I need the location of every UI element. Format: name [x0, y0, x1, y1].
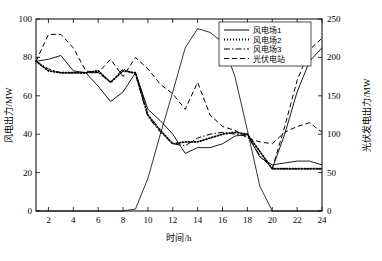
- x-tick-label: 12: [168, 215, 177, 225]
- y-axis-left-ticks: 020406080100: [19, 14, 41, 216]
- wind-pv-output-line-chart: 020406080100 050100150200250 24681012141…: [0, 0, 382, 261]
- x-tick-label: 6: [96, 215, 101, 225]
- y-axis-label-right: 光伏发电出力/MW: [361, 78, 372, 152]
- chart-legend: 风电场1风电场2风电场3光伏电站: [219, 22, 311, 66]
- y-tick-label-right: 150: [327, 91, 341, 101]
- y-axis-label-left: 风电出力/MW: [3, 87, 14, 143]
- y-tick-label-right: 0: [327, 206, 332, 216]
- chart-container: 020406080100 050100150200250 24681012141…: [0, 0, 382, 261]
- y-tick-label-right: 100: [327, 129, 341, 139]
- legend-label-风电场3: 风电场3: [253, 44, 282, 54]
- y-tick-label-left: 60: [23, 91, 33, 101]
- y-axis-right-ticks: 050100150200250: [318, 14, 341, 216]
- y-tick-label-left: 20: [23, 168, 33, 178]
- x-tick-label: 10: [143, 215, 153, 225]
- y-tick-label-left: 100: [19, 14, 33, 24]
- legend-label-风电场1: 风电场1: [253, 25, 282, 35]
- series-line-风电场3: [36, 61, 322, 169]
- y-tick-label-left: 40: [23, 129, 33, 139]
- x-tick-label: 14: [193, 215, 203, 225]
- x-tick-label: 24: [318, 215, 328, 225]
- x-tick-label: 20: [268, 215, 278, 225]
- y-tick-label-right: 200: [327, 52, 341, 62]
- x-tick-label: 2: [46, 215, 51, 225]
- y-tick-label-right: 50: [327, 168, 337, 178]
- x-tick-label: 16: [218, 215, 228, 225]
- y-tick-label-left: 0: [28, 206, 33, 216]
- x-tick-label: 18: [243, 215, 253, 225]
- x-tick-label: 8: [121, 215, 126, 225]
- x-axis-label: 时间/h: [166, 232, 192, 243]
- series-line-风电场2: [36, 61, 322, 169]
- y-tick-label-right: 250: [327, 14, 341, 24]
- y-tick-label-left: 80: [23, 52, 33, 62]
- legend-label-光伏电站: 光伏电站: [253, 54, 285, 64]
- legend-label-风电场2: 风电场2: [253, 35, 282, 45]
- x-tick-label: 4: [71, 215, 76, 225]
- x-tick-label: 22: [293, 215, 302, 225]
